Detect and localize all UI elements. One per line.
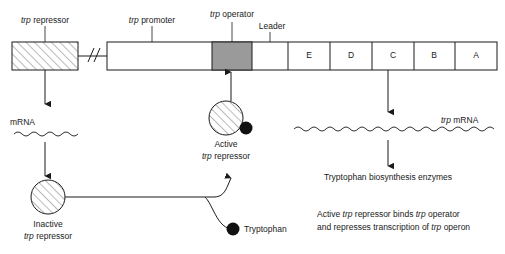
gene-box-B: B bbox=[431, 50, 437, 61]
repressor-activation-path bbox=[65, 178, 231, 197]
repressor-gene-label: trp repressor bbox=[21, 15, 69, 26]
caption-line-1: Active trp repressor binds trp operator bbox=[317, 209, 460, 220]
trp-operon-diagram: trp repressor trp promoter trp operator … bbox=[0, 0, 505, 254]
dna-break-marks bbox=[78, 48, 107, 62]
repressor-gene-box bbox=[12, 42, 78, 70]
gene-box-E: E bbox=[306, 50, 312, 61]
active-repressor-label-line1: Active bbox=[214, 139, 237, 150]
operator-region bbox=[212, 42, 252, 70]
inactive-repressor-label-line1: Inactive bbox=[33, 219, 62, 230]
enzymes-label: Tryptophan biosynthesis enzymes bbox=[324, 172, 452, 183]
operator-label: trp operator bbox=[210, 9, 254, 20]
trp-mrna-squiggle bbox=[294, 127, 494, 131]
gene-box-A: A bbox=[473, 50, 479, 61]
leader-label: Leader bbox=[259, 21, 285, 32]
mrna-label: mRNA bbox=[10, 117, 35, 128]
tryptophan-label: Tryptophan bbox=[244, 224, 287, 235]
active-repressor-shape bbox=[209, 101, 253, 135]
inactive-repressor-shape bbox=[31, 180, 65, 214]
promoter-label: trp promoter bbox=[129, 15, 175, 26]
mrna-squiggle bbox=[14, 132, 78, 136]
gene-box-C: C bbox=[390, 50, 396, 61]
caption-line-2: and represses transcription of trp opero… bbox=[317, 222, 470, 233]
gene-box-D: D bbox=[348, 50, 354, 61]
active-repressor-label-line2: trp repressor bbox=[202, 151, 250, 162]
tryptophan-molecule-dot bbox=[227, 223, 240, 236]
tryptophan-binding-path bbox=[205, 197, 228, 228]
trp-mrna-label: trp mRNA bbox=[441, 115, 478, 126]
inactive-repressor-label-line2: trp repressor bbox=[24, 231, 72, 242]
operon-bar bbox=[107, 42, 497, 70]
